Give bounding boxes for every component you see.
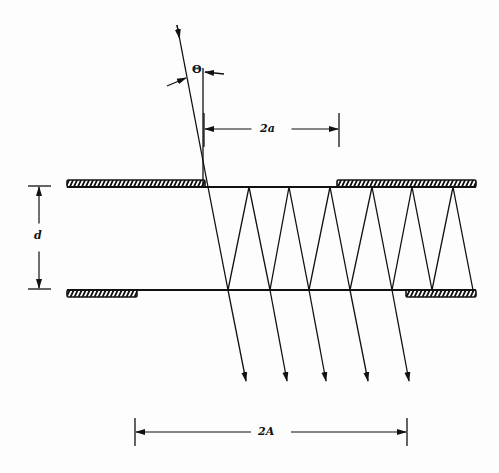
optics-diagram (0, 0, 499, 473)
bottom-left-screen (67, 290, 137, 297)
bottom-right-screen (406, 290, 476, 297)
theta-label: Θ (190, 64, 204, 75)
transmitted-ray-4 (350, 290, 368, 381)
transmitted-ray-5 (392, 290, 409, 381)
angle-arrow-left (167, 78, 186, 86)
internal-reflection-path (208, 187, 473, 290)
transmitted-ray-1 (228, 290, 246, 381)
aperture-width-label-2a: 2a (258, 123, 277, 134)
transmitted-ray-2 (270, 290, 287, 381)
incident-ray-arrowhead (177, 25, 179, 38)
rays (177, 25, 473, 381)
diagram-canvas: Θ 2a d 2A (0, 0, 499, 473)
angle-arrow-right (205, 72, 224, 74)
spread-width-label-2A: 2A (256, 426, 276, 437)
thickness-label-d: d (32, 230, 44, 241)
top-right-screen (337, 180, 476, 187)
transmitted-ray-3 (309, 290, 326, 381)
dimension-lines (28, 68, 407, 446)
top-left-screen (67, 180, 205, 187)
